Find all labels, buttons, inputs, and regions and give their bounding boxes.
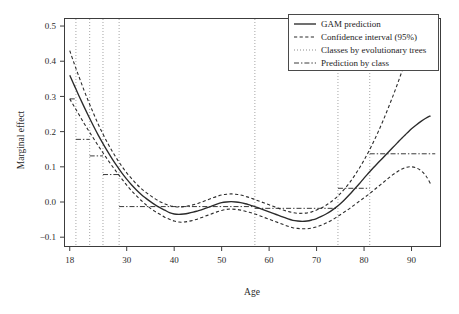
- x-tick-label: 18: [65, 255, 75, 265]
- legend: GAM prediction Confidence interval (95%)…: [289, 15, 439, 71]
- prediction-by-class-line: [70, 99, 436, 208]
- x-axis: 1830405060708090: [65, 246, 416, 265]
- x-tick-label: 70: [312, 255, 322, 265]
- legend-label-classes-by-evolutionary-trees: Classes by evolutionary trees: [321, 45, 427, 55]
- y-axis: −0.10.00.10.20.30.40.5: [40, 21, 65, 242]
- gam-marginal-effect-chart: Marginal effect Age −0.10.00.10.20.30.40…: [0, 0, 459, 314]
- y-tick-label: −0.1: [40, 232, 56, 242]
- gam-prediction-path: [70, 75, 431, 221]
- legend-label-gam-prediction: GAM prediction: [321, 19, 381, 29]
- x-tick-label: 40: [170, 255, 180, 265]
- x-tick-label: 60: [265, 255, 275, 265]
- x-tick-label: 50: [217, 255, 227, 265]
- x-axis-title: Age: [244, 287, 260, 297]
- y-tick-label: 0.5: [45, 21, 57, 31]
- y-tick-label: 0.0: [45, 197, 57, 207]
- y-tick-label: 0.1: [45, 162, 56, 172]
- y-axis-title: Marginal effect: [16, 110, 26, 169]
- legend-label-confidence-interval: Confidence interval (95%): [321, 32, 417, 42]
- y-tick-label: 0.4: [45, 56, 57, 66]
- legend-label-prediction-by-class: Prediction by class: [321, 58, 389, 68]
- x-tick-label: 80: [360, 255, 370, 265]
- chart-svg: Marginal effect Age −0.10.00.10.20.30.40…: [0, 0, 459, 314]
- y-tick-label: 0.2: [45, 127, 56, 137]
- gam-prediction-curve: [70, 75, 431, 221]
- x-tick-label: 90: [407, 255, 417, 265]
- x-tick-label: 30: [122, 255, 132, 265]
- y-tick-label: 0.3: [45, 92, 57, 102]
